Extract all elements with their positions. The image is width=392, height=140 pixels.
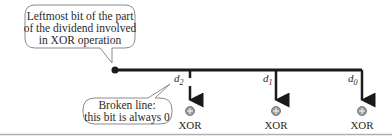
bit-label-d0: d0: [348, 72, 358, 87]
xor-label-d1: XOR: [264, 119, 288, 131]
broken-callout-line-2: this bit is always 0: [84, 111, 170, 124]
callout-broken-line: Broken line: this bit is always 0: [83, 84, 172, 124]
xor-label-d0: XOR: [350, 119, 374, 131]
callout-leftmost-bit: Leftmost bit of the part of the dividend…: [24, 5, 137, 63]
callout-line-3: in XOR operation: [39, 34, 122, 47]
callout-line-2: of the dividend involved: [24, 22, 137, 34]
bit-label-d2: d2: [174, 72, 184, 87]
broken-callout-line-1: Broken line:: [98, 99, 155, 111]
bit-d2: d2 XOR: [174, 70, 202, 131]
bit-label-d1: d1: [263, 72, 273, 87]
bit-d0: d0 XOR: [348, 70, 374, 131]
xor-label-d2: XOR: [178, 119, 202, 131]
divider-xor-diagram: Leftmost bit of the part of the dividend…: [0, 0, 392, 140]
bit-d1: d1 XOR: [263, 70, 288, 131]
